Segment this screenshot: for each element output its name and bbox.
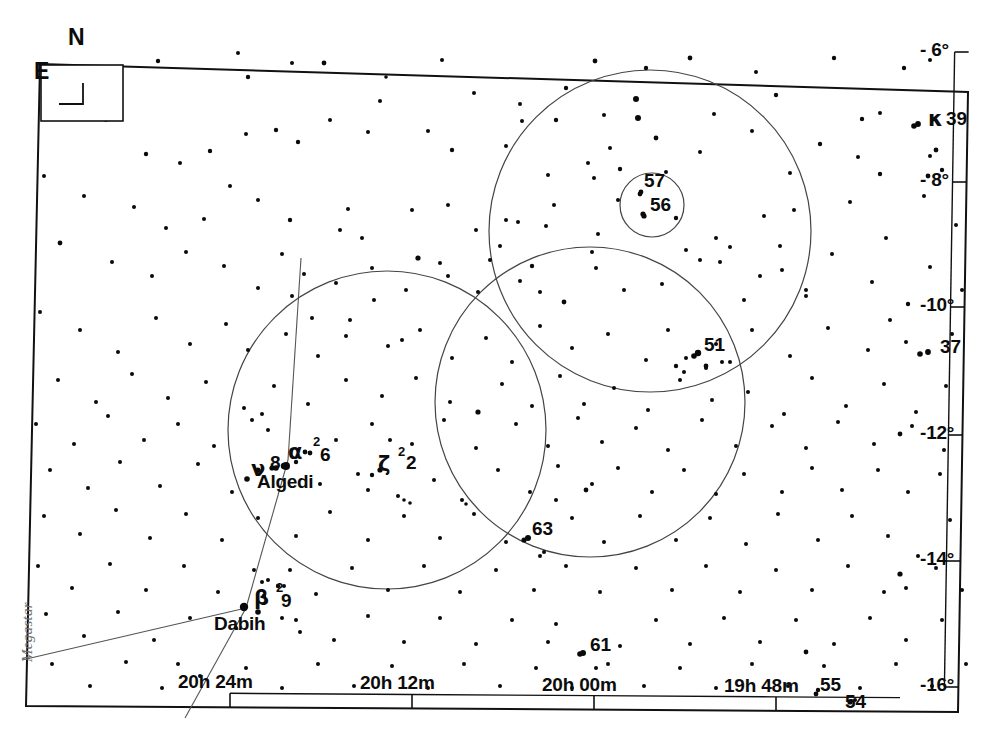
star-dot <box>266 578 270 582</box>
star-dot <box>366 488 370 492</box>
compass-box <box>41 65 123 121</box>
star-dot <box>400 338 404 342</box>
star-dot <box>538 290 542 294</box>
star-dot <box>284 332 288 336</box>
star-dot <box>666 448 670 452</box>
star-dot <box>290 294 294 298</box>
star-dot <box>818 142 822 146</box>
star-dot <box>634 426 638 430</box>
star-dot <box>252 568 256 572</box>
star-dot <box>858 686 862 690</box>
label-6: 6 <box>320 444 331 466</box>
star-dot <box>882 590 886 594</box>
labeled-star-beta2-capricorni <box>240 603 248 611</box>
star-dot <box>586 161 590 165</box>
star-dot <box>290 61 294 65</box>
star-dot <box>538 554 542 558</box>
star-dot <box>148 536 152 540</box>
declination-label-0: - 6° <box>920 39 949 61</box>
star-dot <box>510 360 514 364</box>
star-dot <box>498 684 502 688</box>
star-dot <box>594 666 598 670</box>
star-dot <box>670 588 674 592</box>
star-dot <box>742 472 746 476</box>
star-dot <box>132 205 136 209</box>
labeled-star-star-37 <box>925 349 931 355</box>
star-dot <box>684 356 688 360</box>
star-dot <box>564 86 568 90</box>
star-dot <box>722 616 726 620</box>
star-dot <box>246 348 250 352</box>
star-dot <box>776 512 780 516</box>
label-kappa: κ <box>928 107 943 131</box>
star-dot <box>654 618 658 622</box>
field-of-view-circles <box>228 70 811 589</box>
star-dot <box>904 586 908 590</box>
star-dot <box>432 478 436 482</box>
star-dot <box>750 129 754 133</box>
star-dot <box>600 440 604 444</box>
label-61: 61 <box>590 634 611 656</box>
star-dot <box>846 564 850 568</box>
star-dot <box>346 207 350 211</box>
star-dot <box>116 610 120 614</box>
star-dot <box>460 498 464 502</box>
star-dot <box>674 364 678 368</box>
star-dot <box>328 118 332 122</box>
star-dot <box>840 488 844 492</box>
star-dot <box>960 588 964 592</box>
star-dot <box>288 568 292 572</box>
star-dot <box>750 328 754 332</box>
star-dot <box>350 566 354 570</box>
star-dot <box>48 468 52 472</box>
labeled-star-star-63 <box>525 535 531 541</box>
star-dot <box>602 113 606 117</box>
star-dot <box>402 498 406 502</box>
star-dot <box>940 618 944 622</box>
star-dot <box>212 444 216 448</box>
star-dot <box>244 132 248 136</box>
star-dot <box>546 173 550 177</box>
star-dot <box>758 274 762 278</box>
star-dot <box>344 334 348 338</box>
chart-frame <box>26 64 968 712</box>
compass-east-label: E <box>34 58 49 85</box>
star-dot <box>616 198 620 202</box>
star-dot <box>158 484 162 488</box>
star-dot <box>596 232 600 236</box>
star-dot <box>318 482 322 486</box>
star-dot <box>88 684 92 688</box>
star-dot <box>884 236 888 240</box>
star-dot <box>964 662 968 666</box>
star-dot <box>804 446 808 450</box>
star-dot <box>538 324 542 328</box>
star-dot <box>450 356 454 360</box>
star-dot <box>782 412 786 416</box>
star-dot <box>584 488 589 493</box>
star-dot <box>704 364 709 369</box>
star-dot <box>742 298 746 302</box>
labeled-star-star-56 <box>640 211 645 216</box>
star-dot <box>570 346 574 350</box>
star-dot <box>544 224 548 228</box>
star-dot <box>646 408 650 412</box>
label-zeta: ζ <box>378 452 390 476</box>
star-dot <box>204 380 208 384</box>
label-54: 54 <box>845 691 866 713</box>
star-dot <box>922 194 926 198</box>
star-dot <box>906 302 910 306</box>
star-dot <box>934 148 939 153</box>
label-56: 56 <box>650 194 671 216</box>
star-dot <box>602 540 606 544</box>
star-dot <box>272 384 276 388</box>
star-dot <box>242 406 246 410</box>
star-dot <box>878 172 882 176</box>
star-dot <box>442 418 446 422</box>
labeled-star-kappa-39 <box>915 121 921 127</box>
label-beta: β <box>254 586 269 610</box>
star-dot <box>50 662 54 666</box>
star-dot <box>260 412 264 416</box>
star-dot <box>546 640 550 644</box>
declination-scale-bar <box>946 435 948 561</box>
star-dot <box>78 532 82 536</box>
